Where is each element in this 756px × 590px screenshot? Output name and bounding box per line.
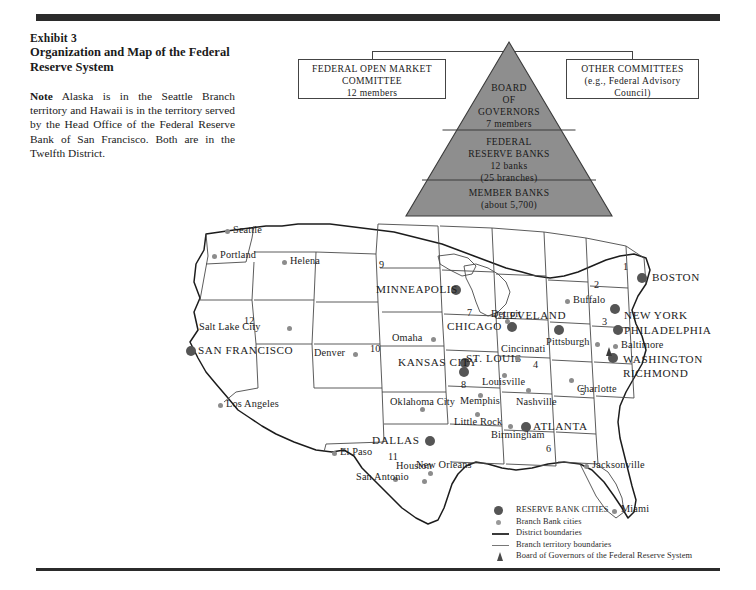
reserve-dot-st-louis bbox=[459, 367, 469, 377]
note-block: Note Alaska is in the Seattle Branch ter… bbox=[30, 89, 235, 161]
branch-dot-charlotte bbox=[569, 378, 574, 383]
reserve-dot-san-francisco bbox=[186, 346, 196, 356]
city-label-louisville: Louisville bbox=[482, 377, 525, 388]
pyramid-graphic: BOARD OF GOVERNORS 7 members FEDERAL RES… bbox=[404, 40, 614, 218]
mb-line-1: MEMBER BANKS bbox=[404, 187, 614, 199]
district-number-10: 10 bbox=[370, 344, 381, 355]
city-label-seattle: Seattle bbox=[233, 225, 262, 236]
city-label-helena: Helena bbox=[290, 256, 320, 267]
district-boundary-line-icon bbox=[492, 533, 509, 535]
district-number-8: 8 bbox=[461, 380, 466, 391]
legend-row-branch-bank-cities: Branch Bank cities bbox=[480, 517, 730, 529]
text-column: Exhibit 3 Organization and Map of the Fe… bbox=[30, 32, 235, 160]
legend-row-board-of-governors: Board of Governors of the Federal Reserv… bbox=[480, 551, 730, 563]
branch-dot-salt-lake-city bbox=[287, 326, 292, 331]
bog-line-2: OF bbox=[404, 94, 614, 106]
page-title: Organization and Map of the Federal Rese… bbox=[30, 45, 235, 76]
city-label-buffalo: Buffalo bbox=[573, 295, 605, 306]
reserve-dot-boston bbox=[637, 273, 647, 283]
branch-dot-jacksonville bbox=[584, 464, 589, 469]
branch-dot-new-orleans bbox=[422, 479, 427, 484]
exhibit-page: Exhibit 3 Organization and Map of the Fe… bbox=[0, 0, 756, 590]
legend-text-3: Branch territory boundaries bbox=[516, 540, 611, 549]
city-label-washington: WASHINGTON bbox=[623, 354, 703, 366]
federal-reserve-district-map: 1 2 3 4 5 6 7 8 9 10 11 12 SAN FRANCISCO… bbox=[176, 212, 740, 552]
city-label-portland: Portland bbox=[220, 250, 256, 261]
city-label-omaha: Omaha bbox=[392, 333, 422, 344]
frb-line-1: FEDERAL bbox=[404, 136, 614, 148]
city-label-dallas: DALLAS bbox=[372, 435, 419, 447]
branch-dot-baltimore bbox=[613, 344, 618, 349]
district-number-9: 9 bbox=[379, 260, 384, 271]
tier-board-of-governors: BOARD OF GOVERNORS 7 members bbox=[404, 82, 614, 130]
branch-dot-el-paso bbox=[332, 451, 337, 456]
legend-row-branch-territory-boundaries: Branch territory boundaries bbox=[480, 540, 730, 552]
city-label-baltimore: Baltimore bbox=[621, 340, 664, 351]
legend-text-1: Branch Bank cities bbox=[516, 517, 582, 526]
tier-member-banks: MEMBER BANKS (about 5,700) bbox=[404, 187, 614, 211]
reserve-dot-new-york bbox=[610, 304, 620, 314]
legend-row-reserve-bank-cities: RESERVE BANK CITIES bbox=[480, 505, 730, 517]
bog-line-3: GOVERNORS bbox=[404, 106, 614, 118]
bog-line-4: 7 members bbox=[404, 118, 614, 130]
city-label-el-paso: El Paso bbox=[340, 447, 372, 458]
city-label-los-angeles: Los Angeles bbox=[226, 399, 279, 410]
city-label-cincinnati: Cincinnati bbox=[501, 344, 545, 355]
frb-line-2: RESERVE BANKS bbox=[404, 148, 614, 160]
district-number-6: 6 bbox=[546, 444, 551, 455]
branch-dot-portland bbox=[212, 254, 217, 259]
bottom-rule bbox=[36, 568, 720, 571]
tier-federal-reserve-banks: FEDERAL RESERVE BANKS 12 banks (25 branc… bbox=[404, 136, 614, 184]
reserve-dot-dallas bbox=[425, 436, 435, 446]
legend-text-4: Board of Governors of the Federal Reserv… bbox=[516, 551, 692, 560]
branch-dot-nashville bbox=[526, 388, 531, 393]
city-label-kansas-city: KANSAS CITY bbox=[398, 357, 456, 369]
branch-dot-denver bbox=[353, 352, 358, 357]
branch-dot-cincinnati bbox=[515, 356, 520, 361]
reserve-dot-cleveland bbox=[554, 325, 564, 335]
city-label-detroit: Detroit bbox=[491, 309, 521, 320]
city-label-richmond: RICHMOND bbox=[623, 368, 688, 380]
organization-diagram: FEDERAL OPEN MARKET COMMITTEE 12 members… bbox=[286, 30, 746, 220]
city-label-philadelphia: PHILADELPHIA bbox=[624, 325, 711, 337]
district-number-7: 7 bbox=[467, 308, 472, 319]
legend-row-district-boundaries: District boundaries bbox=[480, 528, 730, 540]
note-lead: Note bbox=[30, 90, 53, 102]
branch-boundary-line-icon bbox=[492, 545, 509, 546]
city-label-denver: Denver bbox=[314, 348, 345, 359]
district-number-2: 2 bbox=[594, 280, 599, 291]
branch-dot-buffalo bbox=[565, 299, 570, 304]
district-number-3: 3 bbox=[602, 317, 607, 328]
district-number-1: 1 bbox=[623, 262, 628, 273]
mb-line-2: (about 5,700) bbox=[404, 199, 614, 211]
city-label-minneapolis: MINNEAPOLIS bbox=[376, 284, 458, 296]
city-label-new-york: NEW YORK bbox=[624, 310, 688, 322]
reserve-bank-dot-icon bbox=[494, 506, 503, 515]
branch-dot-omaha bbox=[431, 337, 436, 342]
branch-bank-dot-icon bbox=[496, 520, 501, 525]
branch-dot-los-angeles bbox=[218, 403, 223, 408]
legend-text-0: RESERVE BANK CITIES bbox=[516, 505, 608, 514]
exhibit-label: Exhibit 3 bbox=[30, 32, 235, 44]
legend-text-2: District boundaries bbox=[516, 528, 582, 537]
city-label-chicago: CHICAGO bbox=[447, 321, 502, 333]
city-label-san-antonio: San Antonio bbox=[356, 472, 406, 483]
map-outline-svg bbox=[176, 212, 740, 552]
district-number-4: 4 bbox=[533, 360, 538, 371]
board-of-governors-triangle-icon bbox=[497, 552, 503, 561]
branch-dot-pittsburgh bbox=[595, 342, 600, 347]
frb-line-3: 12 banks bbox=[404, 160, 614, 172]
city-label-san-francisco: SAN FRANCISCO bbox=[198, 345, 293, 357]
branch-dot-seattle bbox=[225, 229, 230, 234]
note-text: Alaska is in the Seattle Branch territor… bbox=[30, 90, 235, 159]
city-label-new-orleans: New Orleans bbox=[416, 460, 462, 471]
city-label-pittsburgh: Pittsburgh bbox=[546, 337, 590, 348]
city-label-boston: BOSTON bbox=[652, 272, 700, 284]
city-label-salt-lake-city: Salt Lake City bbox=[199, 322, 261, 333]
bog-line-1: BOARD bbox=[404, 82, 614, 94]
city-label-jacksonville: Jacksonville bbox=[592, 460, 645, 471]
frb-line-4: (25 branches) bbox=[404, 172, 614, 184]
city-label-little-rock: Little Rock bbox=[454, 417, 496, 428]
board-of-governors-marker bbox=[606, 347, 612, 356]
reserve-dot-philadelphia bbox=[613, 325, 623, 335]
